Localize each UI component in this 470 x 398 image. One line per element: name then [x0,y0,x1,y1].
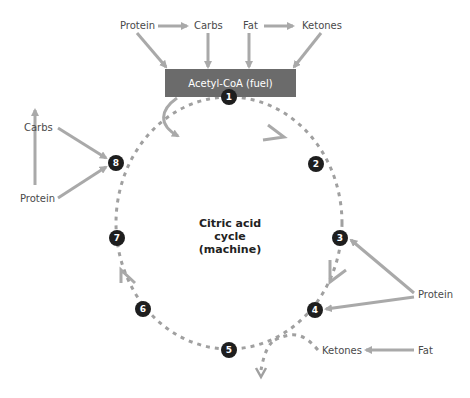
left-carbs-label: Carbs [24,122,53,134]
cycle-node-7: 7 [109,230,125,246]
citric-acid-cycle-label: Citric acid cycle (machine) [180,217,280,256]
cycle-node-6: 6 [135,301,151,317]
citric-acid-cycle-diagram: Protein Carbs Fat Ketones Acetyl-CoA (fu… [0,0,470,398]
top-protein-label: Protein [120,20,155,32]
center-line-2: cycle [180,230,280,243]
cycle-node-8: 8 [108,155,124,171]
diagram-lines [0,0,470,398]
cycle-node-2: 2 [308,156,324,172]
right-protein-label: Protein [418,289,453,301]
cycle-node-1: 1 [221,89,237,105]
center-line-3: (machine) [180,243,280,256]
top-fat-label: Fat [243,20,258,32]
top-carbs-label: Carbs [194,20,223,32]
acetyl-coa-label: Acetyl-CoA (fuel) [188,78,272,89]
center-line-1: Citric acid [180,217,280,230]
cycle-node-3: 3 [332,230,348,246]
top-ketones-label: Ketones [302,20,342,32]
cycle-node-5: 5 [221,342,237,358]
right-ketones-label: Ketones [322,345,362,357]
left-protein-label: Protein [20,193,55,205]
right-fat-label: Fat [418,345,433,357]
cycle-node-4: 4 [307,302,323,318]
